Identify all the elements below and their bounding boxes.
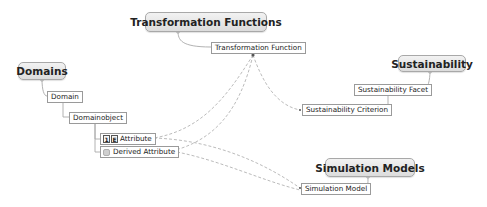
node-sustainability-criterion[interactable]: Sustainability Criterion	[302, 104, 392, 116]
topic-transformation-functions[interactable]: Transformation Functions	[145, 12, 267, 32]
node-domainobject-label: Domainobject	[73, 113, 123, 123]
node-attribute[interactable]: 1 E Attribute	[100, 133, 156, 145]
relation-anchor-criterion	[299, 109, 301, 111]
node-sustainability-facet[interactable]: Sustainability Facet	[354, 84, 432, 96]
relation-derived-sim	[172, 151, 300, 190]
topic-domains[interactable]: Domains	[18, 62, 66, 80]
node-transformation-function-label: Transformation Function	[215, 43, 302, 53]
connector-tf-child	[178, 31, 211, 47]
node-sustainability-facet-label: Sustainability Facet	[358, 85, 428, 95]
node-derived-attribute-label: Derived Attribute	[113, 147, 175, 157]
node-derived-attribute[interactable]: Derived Attribute	[100, 146, 179, 158]
node-domainobject[interactable]: Domainobject	[69, 112, 127, 124]
topic-domains-label: Domains	[16, 65, 67, 77]
node-attribute-label: Attribute	[120, 134, 152, 144]
relation-tf-criterion	[253, 55, 300, 110]
topic-sustainability-label: Sustainability	[391, 58, 473, 70]
letter-marker-icon: E	[111, 135, 118, 143]
node-simulation-model-label: Simulation Model	[305, 184, 367, 194]
node-domain-label: Domain	[51, 92, 79, 102]
derived-marker-icon	[103, 149, 110, 156]
node-domain[interactable]: Domain	[47, 91, 83, 103]
topic-simulation-models-label: Simulation Models	[315, 162, 424, 174]
topic-simulation-models[interactable]: Simulation Models	[325, 158, 415, 177]
number-marker-icon: 1	[103, 135, 110, 143]
node-simulation-model[interactable]: Simulation Model	[301, 183, 371, 195]
relation-tf-attribute	[154, 55, 253, 138]
node-transformation-function[interactable]: Transformation Function	[211, 42, 306, 54]
relation-tf-derived	[172, 55, 253, 151]
topic-sustainability[interactable]: Sustainability	[398, 55, 466, 72]
node-sustainability-criterion-label: Sustainability Criterion	[306, 105, 388, 115]
topic-transformation-functions-label: Transformation Functions	[130, 16, 281, 28]
